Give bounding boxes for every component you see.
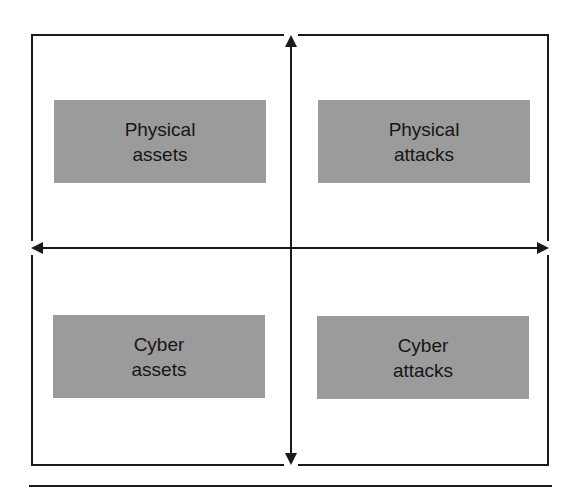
quadrant-cyber-assets: Cyber assets	[53, 315, 265, 398]
vertical-double-arrow	[285, 35, 297, 465]
axes-arrows	[0, 0, 576, 496]
quadrant-cyber-attacks: Cyber attacks	[317, 316, 529, 399]
quadrant-label: Physical attacks	[389, 117, 460, 167]
quadrant-label: Physical assets	[125, 117, 196, 167]
quadrant-physical-assets: Physical assets	[54, 100, 266, 183]
quadrant-label: Cyber assets	[132, 332, 187, 382]
bottom-rule-divider	[29, 485, 552, 487]
quadrant-label: Cyber attacks	[393, 333, 453, 383]
quadrant-physical-attacks: Physical attacks	[318, 100, 530, 183]
